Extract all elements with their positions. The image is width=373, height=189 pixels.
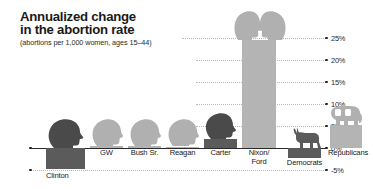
head-silhouette-carter xyxy=(204,112,237,140)
title-block: Annualized change in the abortion rate (… xyxy=(20,10,190,47)
axis-neg5-left-dot xyxy=(29,169,32,172)
category-label-carter: Carter xyxy=(202,149,239,158)
head-silhouette-ford xyxy=(258,10,288,40)
bar-republicans xyxy=(330,125,362,148)
head-silhouette-clinton xyxy=(46,118,85,148)
bar-carter xyxy=(204,139,237,148)
tickdot-25 xyxy=(325,37,328,40)
page-title-line1: Annualized change xyxy=(20,10,190,23)
ytick-label-20: 20% xyxy=(331,56,345,65)
category-label-democrats: Democrats xyxy=(281,159,328,168)
category-label-republicans: Republicans xyxy=(304,149,373,158)
ytick-label-neg5: -5% xyxy=(331,166,344,175)
elephant-silhouette-republicans xyxy=(326,104,364,126)
category-label-gw: GW xyxy=(90,149,123,158)
gridline-neg5 xyxy=(30,170,326,171)
bar-clinton xyxy=(46,148,85,169)
page-title-line2: in the abortion rate xyxy=(20,23,190,36)
head-silhouette-gw xyxy=(90,118,124,146)
head-silhouette-bush-sr xyxy=(128,118,162,146)
tickdot-neg5 xyxy=(325,169,328,172)
head-silhouette-reagan xyxy=(166,118,200,146)
axis-origin-dot xyxy=(29,147,32,150)
tickdot-15 xyxy=(325,81,328,84)
tickdot-20 xyxy=(325,59,328,62)
category-label-clinton: Clinton xyxy=(38,172,102,181)
ytick-label-15: 15% xyxy=(331,78,345,87)
category-label-nixon-ford: Nixon/ Ford xyxy=(240,149,278,166)
category-label-bush-sr: Bush Sr. xyxy=(125,149,164,158)
page-subtitle: (abortions per 1,000 women, ages 15–44) xyxy=(20,39,190,47)
donkey-silhouette-democrats xyxy=(288,128,322,149)
bar-nixon-ford xyxy=(242,40,276,148)
ytick-label-25: 25% xyxy=(331,34,345,43)
category-label-reagan: Reagan xyxy=(163,149,202,158)
